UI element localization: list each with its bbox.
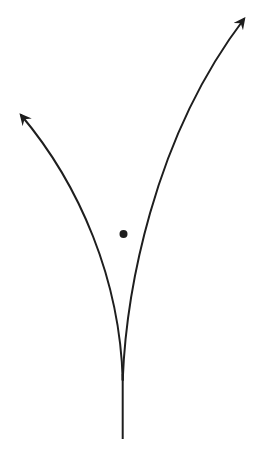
figure-canvas: [0, 0, 261, 451]
focus-point-dot: [120, 230, 128, 238]
left-branch-curve: [21, 115, 123, 380]
right-branch-curve: [123, 19, 244, 380]
cusp-trajectory-diagram: [0, 0, 261, 451]
